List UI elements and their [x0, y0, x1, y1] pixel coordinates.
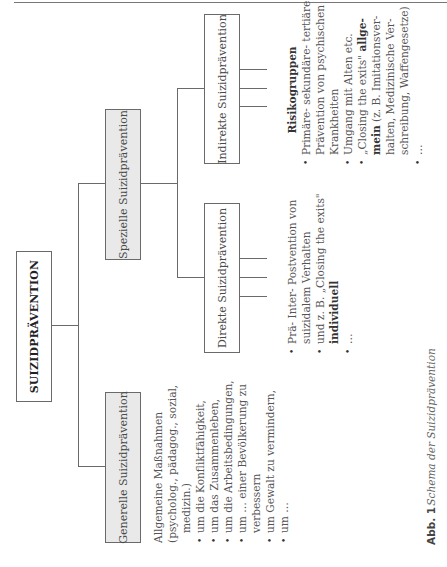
general-prevention-details: Allgemeine Maßnahmen (psycholog., pädago…	[151, 380, 291, 543]
indirect-prevention-details: Risikogruppen Primäre- sekundäre- tertiä…	[285, 1, 425, 165]
list-item-continuation: verbessern	[249, 380, 263, 543]
general-bold-a: allge-	[356, 18, 368, 51]
list-item: Umgang mit Alten etc.	[341, 1, 355, 165]
connector-direct-stub	[177, 277, 204, 278]
special-prevention-label: Spezielle Suizidprävention	[117, 110, 130, 259]
list-item: …	[341, 193, 355, 354]
direct-prevention-label: Direkte Suizidprävention	[216, 208, 229, 348]
list-item: …	[411, 1, 425, 165]
list-item: um Gewalt zu vermindern,	[263, 380, 277, 543]
root-node: SUIZIDPRÄVENTION	[16, 251, 52, 402]
root-label: SUIZIDPRÄVENTION	[28, 260, 41, 394]
list-item-continuation: suizidalem Verhalten	[299, 193, 313, 354]
connector-special-stub	[78, 183, 105, 184]
general-intro-line: Allgemeine Maßnahmen	[151, 380, 165, 543]
individual-label: individuell	[327, 193, 341, 354]
list-item-continuation: halten, Medizinische Ver-	[383, 1, 397, 165]
special-prevention-node: Spezielle Suizidprävention	[105, 109, 141, 260]
direct-prevention-details: Prä- Inter- Postvention von suizidalem V…	[285, 193, 355, 354]
list-item: und z. B. „Closing the exits"	[313, 193, 327, 354]
tick-direct-3	[240, 296, 267, 297]
list-item-continuation: schreibung, Waffengesetze)	[397, 1, 411, 165]
indirect-prevention-node: Indirekte Suizidprävention	[204, 14, 240, 164]
connector-level2-bar	[177, 88, 178, 278]
figure-caption: Abb. 1 Schema der Suizidprävention	[425, 348, 437, 545]
caption-text: Schema der Suizidprävention	[425, 348, 437, 505]
list-item: „Closing the exits" allge-	[355, 1, 369, 165]
general-bullet-list: um die Konfliktfähigkeit, um das Zusamme…	[193, 380, 291, 543]
list-item: um die Konfliktfähigkeit,	[193, 380, 207, 543]
tick-direct-2	[240, 277, 267, 278]
direct-bullet-list: Prä- Inter- Postvention von suizidalem V…	[285, 193, 355, 354]
list-item: um … einer Bevölkerung zu	[235, 380, 249, 543]
general-prevention-label: Generelle Suizidprävention	[117, 391, 130, 544]
closing-exits-text: „Closing the exits"	[356, 55, 368, 155]
rotated-diagram: SUIZIDPRÄVENTION Generelle Suizidprävent…	[0, 0, 447, 567]
connector-general-stub	[78, 466, 105, 467]
list-item: Prä- Inter- Postvention von	[285, 193, 299, 354]
connector-root-stub	[52, 325, 78, 326]
caption-label: Abb. 1	[425, 509, 437, 545]
list-item-continuation: Prävention von psychischen	[313, 1, 327, 165]
connector-level1-bar	[78, 184, 79, 467]
list-item-continuation: Krankheiten	[327, 1, 341, 165]
risk-groups-heading: Risikogruppen	[285, 15, 299, 165]
direct-prevention-node: Direkte Suizidprävention	[204, 203, 240, 353]
general-prevention-node: Generelle Suizidprävention	[105, 392, 141, 543]
general-bold-b: mein	[370, 125, 382, 155]
connector-indirect-stub	[177, 88, 204, 89]
tick-direct-1	[240, 258, 267, 259]
list-item: Primäre- sekundäre- tertiäre	[299, 1, 313, 165]
list-item-continuation: mein (z. B. Imitationsver-	[369, 1, 383, 165]
list-item: um das Zusammenleben,	[207, 380, 221, 543]
indirect-prevention-label: Indirekte Suizidprävention	[216, 14, 229, 164]
general-intro-line: medizin.)	[179, 380, 193, 543]
list-item: um …	[277, 380, 291, 543]
indirect-bullet-list: Primäre- sekundäre- tertiäre Prävention …	[299, 1, 425, 165]
general-intro-line: (psycholog., pädagog., sozial,	[165, 380, 179, 543]
tick-indirect-1	[240, 69, 267, 70]
closing-exits-detail: (z. B. Imitationsver-	[370, 16, 382, 122]
tick-indirect-3	[240, 106, 267, 107]
tick-indirect-2	[240, 88, 267, 89]
list-item: um die Arbeitsbedingungen,	[221, 380, 235, 543]
connector-special-out	[141, 183, 177, 184]
